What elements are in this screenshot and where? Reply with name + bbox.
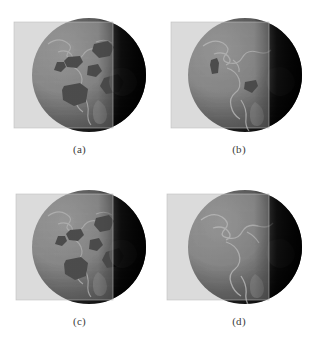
volume-render-a bbox=[0, 0, 159, 148]
volume-render-c bbox=[0, 172, 159, 320]
figure-panel-grid: (a) bbox=[0, 0, 319, 343]
figure-panel-b: (b) bbox=[159, 0, 319, 172]
globe-scene-c bbox=[0, 172, 159, 320]
panel-caption-a: (a) bbox=[0, 143, 159, 155]
figure-panel-d: (d) bbox=[159, 172, 319, 343]
globe-scene-d bbox=[159, 172, 319, 320]
globe-scene-b bbox=[159, 0, 319, 148]
panel-caption-c: (c) bbox=[0, 315, 159, 327]
cut-plane-front-d bbox=[167, 194, 269, 300]
cut-plane-front-b bbox=[171, 22, 269, 128]
volume-render-b bbox=[159, 0, 319, 148]
cut-plane-front-c bbox=[16, 194, 113, 300]
cut-plane-front-a bbox=[14, 22, 113, 128]
figure-panel-a: (a) bbox=[0, 0, 159, 172]
panel-caption-b: (b) bbox=[159, 143, 319, 155]
panel-caption-d: (d) bbox=[159, 315, 319, 327]
figure-panel-c: (c) bbox=[0, 172, 159, 343]
globe-scene-a bbox=[0, 0, 159, 148]
volume-render-d bbox=[159, 172, 319, 320]
